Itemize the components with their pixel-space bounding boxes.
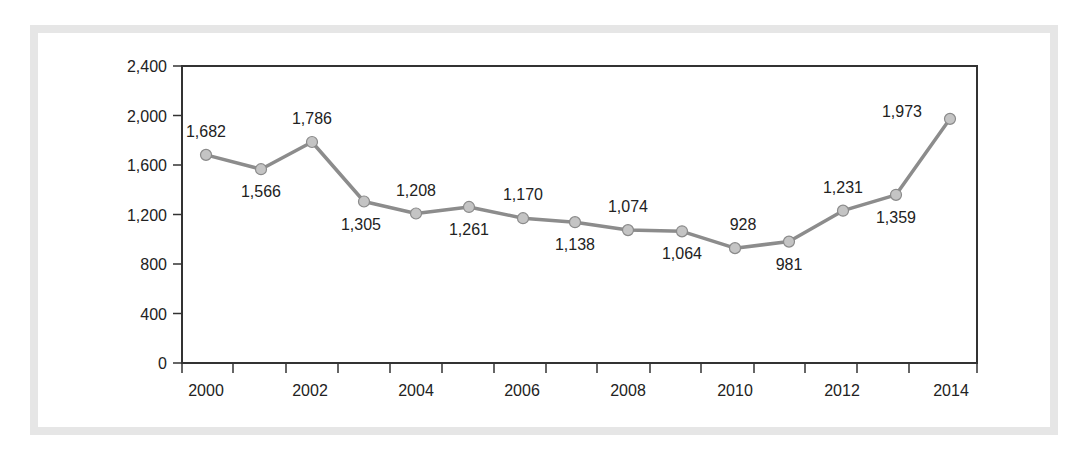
x-tick-label: 2008 [610, 382, 646, 399]
data-point-marker [518, 213, 529, 224]
data-label: 1,138 [555, 236, 595, 253]
data-label: 1,261 [449, 221, 489, 238]
data-label: 928 [730, 216, 757, 233]
data-label: 1,786 [292, 110, 332, 127]
y-tick-label: 2,400 [127, 58, 167, 75]
data-labels: 1,6821,5661,7861,3051,2081,2611,1701,138… [186, 103, 922, 273]
x-tick-label: 2006 [504, 382, 540, 399]
data-point-marker [784, 236, 795, 247]
x-tick-label: 2002 [292, 382, 328, 399]
x-tick-label: 2014 [933, 382, 969, 399]
data-point-marker [945, 113, 956, 124]
data-point-marker [570, 217, 581, 228]
y-axis-ticks: 04008001,2001,6002,0002,400 [127, 58, 182, 372]
x-tick-label: 2012 [824, 382, 860, 399]
data-label: 981 [776, 256, 803, 273]
data-point-marker [256, 164, 267, 175]
y-tick-label: 400 [140, 306, 167, 323]
data-label: 1,682 [186, 123, 226, 140]
x-tick-label: 2000 [188, 382, 224, 399]
data-point-marker [359, 196, 370, 207]
data-point-marker [677, 226, 688, 237]
y-tick-label: 0 [158, 355, 167, 372]
data-point-marker [623, 225, 634, 236]
x-tick-label: 2010 [717, 382, 753, 399]
data-label: 1,231 [823, 179, 863, 196]
data-label: 1,566 [241, 183, 281, 200]
data-label: 1,305 [341, 216, 381, 233]
data-point-marker [464, 201, 475, 212]
y-tick-label: 1,200 [127, 207, 167, 224]
data-point-marker [730, 243, 741, 254]
y-tick-label: 2,000 [127, 108, 167, 125]
data-point-marker [838, 205, 849, 216]
data-label: 1,170 [503, 186, 543, 203]
data-label: 1,074 [608, 198, 648, 215]
x-tick-label: 2004 [398, 382, 434, 399]
data-point-marker [307, 136, 318, 147]
data-label: 1,359 [876, 209, 916, 226]
line-chart: 04008001,2001,6002,0002,400 200020022004… [0, 0, 1082, 463]
y-tick-label: 800 [140, 256, 167, 273]
data-label: 1,208 [396, 182, 436, 199]
x-axis-ticks: 20002002200420062008201020122014 [182, 363, 977, 399]
data-point-marker [201, 149, 212, 160]
data-point-marker [891, 189, 902, 200]
y-tick-label: 1,600 [127, 157, 167, 174]
data-label: 1,064 [662, 245, 702, 262]
data-point-marker [411, 208, 422, 219]
data-label: 1,973 [882, 103, 922, 120]
